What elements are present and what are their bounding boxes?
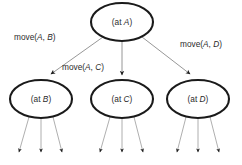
leaf-arrow xyxy=(100,117,110,152)
node-root[interactable]: (at A) xyxy=(91,3,153,41)
leaf-arrow xyxy=(53,117,62,152)
node-label-root: (at A) xyxy=(112,17,133,27)
edge-label-move-a-d: move(A, D) xyxy=(180,39,222,49)
node-child-c[interactable]: (at C) xyxy=(91,80,153,118)
leaf-arrows-d xyxy=(177,117,219,152)
leaf-arrow xyxy=(177,117,186,152)
edge-label-move-a-c: move(A, C) xyxy=(62,62,104,72)
node-label-d: (at D) xyxy=(188,94,209,104)
leaf-arrows-b xyxy=(19,117,62,152)
node-label-b: (at B) xyxy=(31,94,52,104)
leaf-arrow xyxy=(210,117,219,152)
search-tree-diagram: (at A) (at B) (at C) (at D) xyxy=(0,0,242,165)
edge-label-move-a-b: move(A, B) xyxy=(14,32,56,42)
leaf-arrow xyxy=(19,117,29,152)
node-child-d[interactable]: (at D) xyxy=(167,80,229,118)
node-label-c: (at C) xyxy=(112,94,133,104)
search-tree-canvas: (at A) (at B) (at C) (at D) xyxy=(0,0,242,165)
leaf-arrows-c xyxy=(100,117,143,152)
leaf-arrow xyxy=(134,117,143,152)
node-child-b[interactable]: (at B) xyxy=(10,80,72,118)
